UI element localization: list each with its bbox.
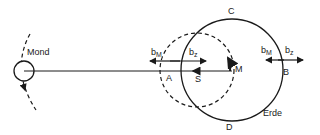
label-bz-right: bz [285, 46, 294, 56]
label-bz-left: bz [189, 48, 198, 58]
barycenter-orbit-circle [160, 33, 234, 107]
label-point-b: B [283, 68, 289, 77]
label-bm-left: bM [151, 48, 162, 58]
label-point-c: C [228, 7, 235, 16]
label-earth: Erde [263, 109, 282, 118]
label-point-d: D [226, 123, 233, 132]
earth-circle [181, 19, 283, 121]
label-point-s: S [195, 75, 201, 84]
label-point-m: M [235, 65, 243, 74]
label-bm-right: bM [261, 46, 272, 56]
label-point-a: A [166, 74, 172, 83]
label-moon: Mond [27, 48, 50, 57]
m-rotation-arrow [228, 58, 230, 71]
